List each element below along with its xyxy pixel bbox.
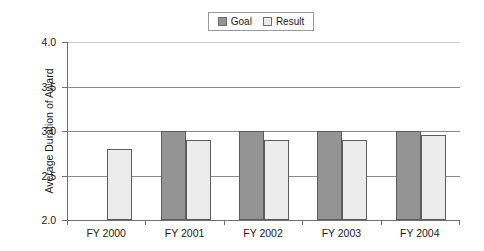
- x-axis-tick: [67, 220, 68, 225]
- dark-gray-swatch-icon: [218, 17, 227, 26]
- y-axis-tick-label: 2.5: [16, 171, 56, 182]
- y-axis-tick-label: 3.5: [16, 82, 56, 93]
- x-axis-tick: [459, 220, 460, 225]
- legend-entry-goal: Goal: [218, 17, 252, 27]
- x-axis-tick: [145, 220, 146, 225]
- y-axis-tick-label: 4.0: [16, 37, 56, 48]
- x-axis-category-label: FY 2001: [165, 228, 205, 239]
- x-axis-category-label: FY 2000: [86, 228, 126, 239]
- bar-result: [421, 135, 446, 220]
- plot-area: [67, 42, 459, 220]
- bar-result: [342, 140, 367, 220]
- gridline-top: [68, 42, 460, 43]
- bar-goal: [396, 131, 421, 220]
- legend-label-goal: Goal: [231, 17, 252, 27]
- gridline: [68, 87, 460, 88]
- bar-chart-figure: Goal Result Average Duration of Award 2.…: [0, 0, 484, 251]
- x-axis-tick: [224, 220, 225, 225]
- y-axis-tick-label: 3.0: [16, 126, 56, 137]
- x-axis-tick: [302, 220, 303, 225]
- x-axis-category-label: FY 2004: [400, 228, 440, 239]
- y-axis-tick-labels: 2.02.53.03.54.0: [0, 0, 60, 251]
- bar-result: [107, 149, 132, 220]
- light-gray-swatch-icon: [263, 17, 272, 26]
- legend-entry-result: Result: [263, 17, 304, 27]
- chart-legend: Goal Result: [208, 12, 314, 31]
- bar-result: [186, 140, 211, 220]
- x-axis-category-label: FY 2002: [243, 228, 283, 239]
- bar-goal: [317, 131, 342, 220]
- x-axis-tick: [381, 220, 382, 225]
- bar-goal: [161, 131, 186, 220]
- y-axis-tick-label: 2.0: [16, 215, 56, 226]
- bar-goal: [239, 131, 264, 220]
- legend-label-result: Result: [276, 17, 304, 27]
- bar-result: [264, 140, 289, 220]
- x-axis-category-label: FY 2003: [322, 228, 362, 239]
